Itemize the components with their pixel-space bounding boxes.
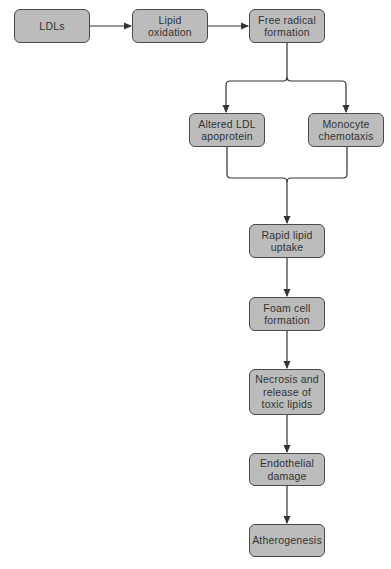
node-altered-ldl-apoprotein: Altered LDL apoprotein [189,113,265,147]
node-lipid-oxidation: Lipid oxidation [132,9,208,43]
split-connector-free-radical-right [287,77,346,112]
node-endothelial-damage: Endothelial damage [249,453,325,486]
node-free-radical-formation: Free radical formation [249,9,325,43]
node-rapid-lipid-uptake: Rapid lipid uptake [249,224,325,258]
node-necrosis-release-toxic-lipids: Necrosis and release of toxic lipids [249,369,325,415]
node-monocyte-chemotaxis: Monocyte chemotaxis [308,113,384,147]
merge-connector-right [287,147,347,182]
node-ldls: LDLs [14,9,90,43]
connectors [0,0,391,569]
split-connector-free-radical [226,43,287,112]
merge-connector-left [227,146,287,182]
node-foam-cell-formation: Foam cell formation [249,297,325,331]
node-atherogenesis: Atherogenesis [249,524,325,557]
